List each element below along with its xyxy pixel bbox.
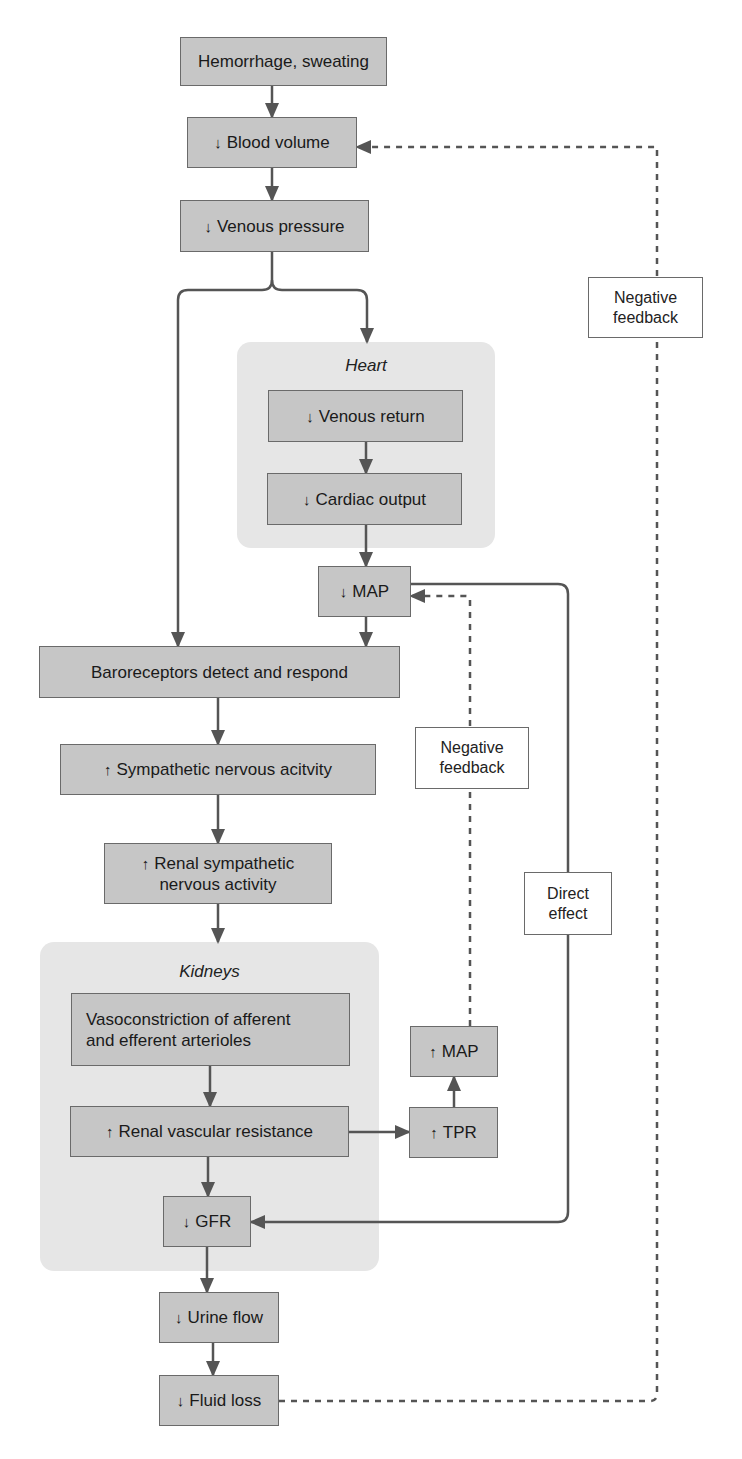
up-arrow-icon: ↑: [106, 1121, 114, 1142]
node-label: Fluid loss: [189, 1390, 261, 1411]
node-label-line1: Vasoconstriction of afferent: [86, 1009, 290, 1030]
node-fluid-loss: ↓ Fluid loss: [159, 1375, 279, 1426]
down-arrow-icon: ↓: [303, 489, 311, 510]
node-label: Baroreceptors detect and respond: [91, 662, 348, 683]
node-label: Urine flow: [187, 1307, 263, 1328]
node-sympathetic-activity: ↑ Sympathetic nervous acitvity: [60, 744, 376, 795]
node-urine-flow: ↓ Urine flow: [159, 1292, 279, 1343]
node-gfr: ↓ GFR: [163, 1196, 251, 1247]
node-label: GFR: [195, 1211, 231, 1232]
node-label-line2: and efferent arterioles: [86, 1030, 290, 1051]
note-line1: Negative: [613, 288, 678, 308]
up-arrow-icon: ↑: [430, 1122, 438, 1143]
note-direct-effect: Direct effect: [524, 872, 612, 935]
note-line2: effect: [547, 904, 589, 924]
node-label: Renal vascular resistance: [118, 1121, 313, 1142]
down-arrow-icon: ↓: [177, 1390, 185, 1411]
down-arrow-icon: ↓: [214, 132, 222, 153]
node-renal-sympathetic-activity: ↑Renal sympathetic nervous activity: [104, 843, 332, 904]
node-cardiac-output: ↓ Cardiac output: [267, 473, 462, 525]
node-label: TPR: [443, 1122, 477, 1143]
node-baroreceptors: Baroreceptors detect and respond: [39, 646, 400, 698]
node-venous-return: ↓ Venous return: [268, 390, 463, 442]
node-map-increase: ↑ MAP: [410, 1026, 498, 1077]
node-label: Hemorrhage, sweating: [198, 51, 369, 72]
node-tpr: ↑ TPR: [409, 1107, 498, 1158]
node-label: Venous return: [319, 406, 425, 427]
node-label: Sympathetic nervous acitvity: [117, 759, 332, 780]
note-line1: Negative: [440, 738, 505, 758]
node-label: Blood volume: [227, 132, 330, 153]
down-arrow-icon: ↓: [175, 1307, 183, 1328]
node-venous-pressure: ↓ Venous pressure: [180, 200, 369, 252]
node-label: MAP: [442, 1041, 479, 1062]
note-line2: feedback: [613, 308, 678, 328]
note-line2: feedback: [440, 758, 505, 778]
node-hemorrhage-sweating: Hemorrhage, sweating: [180, 37, 387, 86]
node-label: MAP: [352, 581, 389, 602]
node-vasoconstriction: Vasoconstriction of afferent and efferen…: [71, 993, 350, 1066]
up-arrow-icon: ↑: [104, 759, 112, 780]
node-map-decrease: ↓ MAP: [318, 566, 411, 617]
up-arrow-icon: ↑: [429, 1041, 437, 1062]
down-arrow-icon: ↓: [204, 216, 212, 237]
node-renal-vascular-resistance: ↑ Renal vascular resistance: [70, 1106, 349, 1157]
node-label: Cardiac output: [315, 489, 426, 510]
note-line1: Direct: [547, 884, 589, 904]
node-label: Venous pressure: [217, 216, 345, 237]
node-label-line2: nervous activity: [142, 874, 294, 895]
node-label-line1: Renal sympathetic: [154, 854, 294, 873]
down-arrow-icon: ↓: [183, 1211, 191, 1232]
up-arrow-icon: ↑: [142, 855, 150, 872]
down-arrow-icon: ↓: [306, 406, 314, 427]
note-negative-feedback-inner: Negative feedback: [415, 727, 529, 789]
connectors: [0, 0, 742, 1459]
node-blood-volume: ↓ Blood volume: [187, 117, 357, 168]
note-negative-feedback-outer: Negative feedback: [588, 277, 703, 338]
flowchart: Heart Kidneys: [0, 0, 742, 1459]
down-arrow-icon: ↓: [340, 581, 348, 602]
